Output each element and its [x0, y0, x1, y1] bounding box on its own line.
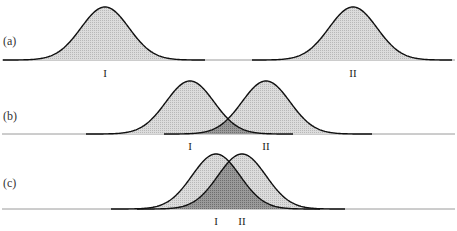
panel-c-label: (c) [3, 176, 16, 190]
panel-c-label-II: II [238, 215, 246, 227]
panel-a: (a) I II [2, 7, 455, 79]
panel-b-label: (b) [3, 109, 17, 123]
panel-a-curve-II-fill [252, 7, 452, 60]
panel-a-label-I: I [103, 67, 107, 79]
panel-a-label: (a) [3, 34, 16, 48]
panel-b-label-I: I [188, 140, 192, 152]
panel-c-overlap-region [137, 162, 320, 210]
panel-c-label-I: I [214, 215, 218, 227]
panel-a-label-II: II [349, 67, 357, 79]
panel-a-curve-I-fill [3, 7, 205, 60]
panel-b: (b) I II [2, 81, 455, 152]
panel-c: (c) I II [2, 154, 455, 227]
overlapping-distributions-diagram: (a) I II (b) I II (c) I II [0, 0, 457, 231]
panel-b-label-II: II [262, 140, 270, 152]
